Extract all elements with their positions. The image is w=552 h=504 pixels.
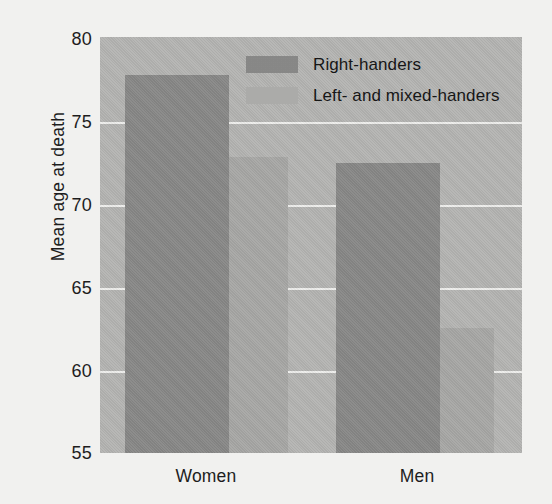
x-tick-label-men: Men xyxy=(400,466,435,487)
bar-women-right-handers xyxy=(125,75,229,453)
y-axis-tick-labels: 80 75 70 65 60 55 xyxy=(30,0,92,504)
plot-area: Right-handers Left- and mixed-handers xyxy=(100,37,522,453)
bar-chart-figure: Mean age at death 80 75 70 65 60 55 Righ… xyxy=(0,0,552,504)
y-tick-label-55: 55 xyxy=(30,443,92,464)
y-tick-label-60: 60 xyxy=(30,361,92,382)
legend-swatch-right-handers xyxy=(246,56,298,73)
y-tick-label-75: 75 xyxy=(30,112,92,133)
x-tick-label-women: Women xyxy=(176,466,237,487)
y-tick-label-65: 65 xyxy=(30,278,92,299)
legend: Right-handers Left- and mixed-handers xyxy=(246,49,500,111)
bar-men-right-handers xyxy=(336,163,440,453)
legend-item-right-handers: Right-handers xyxy=(246,49,500,80)
legend-label-left-mixed-handers: Left- and mixed-handers xyxy=(313,86,500,106)
legend-item-left-mixed-handers: Left- and mixed-handers xyxy=(246,80,500,111)
bar-men-left-mixed-handers xyxy=(440,328,494,453)
y-tick-label-70: 70 xyxy=(30,195,92,216)
y-tick-label-80: 80 xyxy=(30,29,92,50)
bar-women-left-mixed-handers xyxy=(229,157,288,453)
legend-swatch-left-mixed-handers xyxy=(246,87,298,104)
legend-label-right-handers: Right-handers xyxy=(313,55,421,75)
